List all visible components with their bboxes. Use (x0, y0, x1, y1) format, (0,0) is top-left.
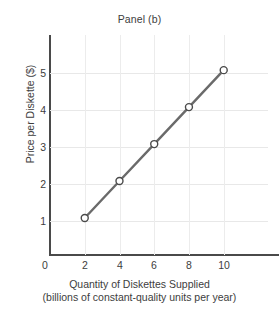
x-tick-4: 4 (107, 260, 133, 271)
y-axis-label: Price per Diskette ($) (24, 34, 36, 194)
y-tick-1: 1 (22, 216, 46, 227)
plot-area (50, 35, 268, 255)
x-tick-0: 0 (32, 260, 58, 271)
x-tick-6: 6 (141, 260, 167, 271)
data-point (81, 215, 88, 222)
data-point (151, 141, 158, 148)
data-point (116, 178, 123, 185)
chart-figure: Panel (b) 5 4 3 2 1 0 2 4 6 8 10 Price p… (0, 0, 279, 318)
x-tick-8: 8 (176, 260, 202, 271)
x-axis-label-main: Quantity of Diskettes Supplied (0, 278, 279, 291)
x-tick-10: 10 (211, 260, 237, 271)
chart-title: Panel (b) (0, 13, 279, 25)
data-point (185, 104, 192, 111)
x-axis-label-sub: (billions of constant-quality units per … (0, 291, 279, 304)
x-axis-label: Quantity of Diskettes Supplied (billions… (0, 278, 279, 304)
supply-curve (50, 35, 268, 255)
x-tick-2: 2 (72, 260, 98, 271)
data-point (220, 67, 227, 74)
